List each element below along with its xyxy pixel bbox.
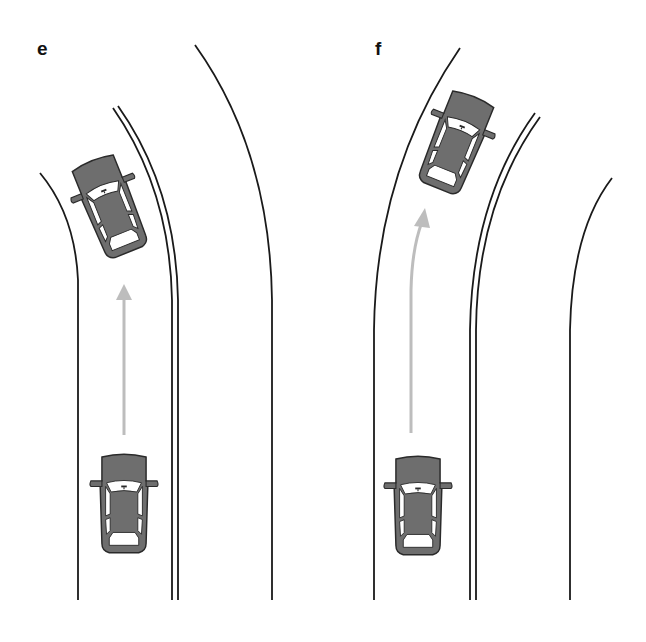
road-edge-left-e <box>40 173 78 600</box>
car-future-f <box>406 84 506 201</box>
road-diagram <box>0 0 646 642</box>
center-line-f-2 <box>476 117 540 600</box>
car-current-f <box>384 456 452 554</box>
direction-arrow-f <box>411 222 422 433</box>
road-edge-right-f <box>570 178 612 600</box>
car-current-e <box>90 454 158 552</box>
panel-f <box>374 48 612 600</box>
arrowhead-f <box>414 208 430 228</box>
arrowhead-e <box>116 284 132 300</box>
panel-e <box>40 45 272 600</box>
road-edge-right-e <box>195 45 272 600</box>
